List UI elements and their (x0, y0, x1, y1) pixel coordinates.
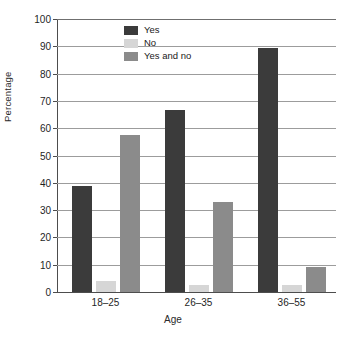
bar-chart-figure: Percentage 0102030405060708090100 18–252… (0, 0, 346, 337)
y-tick-label: 50 (40, 150, 51, 161)
y-tick-mark (53, 183, 57, 184)
x-tick-label: 26–35 (185, 297, 213, 308)
y-tick-mark (53, 237, 57, 238)
y-tick-mark (53, 210, 57, 211)
legend-label: No (144, 38, 156, 48)
bar (120, 135, 140, 292)
legend-swatch-icon (124, 52, 138, 61)
bar (306, 267, 326, 292)
x-tick-label: 18–25 (92, 297, 120, 308)
y-tick-mark (53, 19, 57, 20)
bar (189, 285, 209, 292)
bar (282, 285, 302, 292)
x-axis-title: Age (0, 314, 346, 325)
legend-item: Yes and no (124, 50, 191, 62)
y-tick-label: 30 (40, 205, 51, 216)
bar (213, 202, 233, 292)
chart-legend: YesNoYes and no (124, 24, 191, 63)
bar (96, 281, 116, 292)
legend-item: No (124, 37, 191, 49)
bar (258, 48, 278, 292)
legend-label: Yes and no (144, 51, 191, 61)
y-tick-label: 90 (40, 41, 51, 52)
y-tick-mark (53, 292, 57, 293)
legend-label: Yes (144, 25, 160, 35)
plot-area (57, 19, 336, 292)
y-axis-title: Percentage (2, 108, 13, 122)
y-tick-label: 80 (40, 68, 51, 79)
legend-swatch-icon (124, 39, 138, 48)
legend-item: Yes (124, 24, 191, 36)
y-tick-mark (53, 46, 57, 47)
x-axis-line (57, 292, 336, 293)
y-tick-mark (53, 265, 57, 266)
y-tick-label: 40 (40, 177, 51, 188)
legend-swatch-icon (124, 26, 138, 35)
y-tick-label: 20 (40, 232, 51, 243)
y-tick-mark (53, 156, 57, 157)
bar (165, 110, 185, 292)
y-tick-mark (53, 128, 57, 129)
y-tick-label: 60 (40, 123, 51, 134)
y-tick-label: 0 (45, 287, 51, 298)
y-tick-label: 100 (34, 14, 51, 25)
y-tick-label: 70 (40, 95, 51, 106)
y-tick-label: 10 (40, 259, 51, 270)
x-tick-label: 36–55 (278, 297, 306, 308)
bar-group (258, 19, 326, 292)
bar (72, 186, 92, 292)
y-tick-mark (53, 101, 57, 102)
y-tick-mark (53, 74, 57, 75)
